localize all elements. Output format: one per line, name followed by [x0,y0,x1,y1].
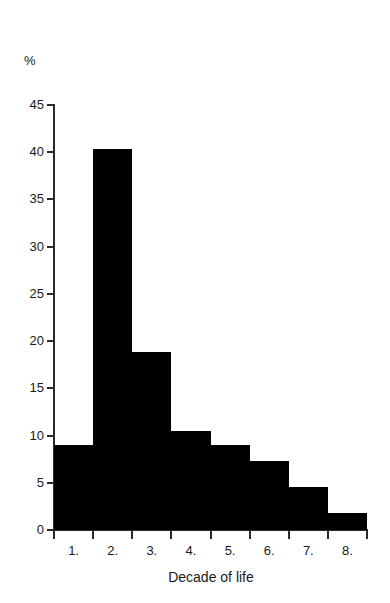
x-axis-tick-mark [170,531,172,539]
y-axis-tick-mark [47,198,54,200]
y-axis-tick-mark [47,435,54,437]
x-axis-tick-label: 6. [249,542,289,560]
x-axis-tick-label: 7. [288,542,328,560]
x-axis-tick-label: 2. [93,542,133,560]
y-axis-tick-mark [47,340,54,342]
y-axis-tick-label-text: 5 [0,476,44,490]
y-axis-unit-label: % [24,53,36,69]
y-axis-tick-label-text: 10 [0,429,44,443]
x-axis-tick-mark [288,531,290,539]
y-axis-tick-label: 35 [0,192,44,206]
x-axis-tick-mark [210,531,212,539]
y-axis-tick-label: 0 [0,523,44,537]
y-axis-tick-label-text: 25 [0,287,44,301]
bar [211,445,250,530]
y-axis-tick-label: 10 [0,429,44,443]
y-axis-tick-mark [47,151,54,153]
y-axis-tick-mark [47,482,54,484]
y-axis-tick-label: 45 [0,98,44,112]
y-axis-tick-label: 40 [0,145,44,159]
x-axis-tick-mark [131,531,133,539]
bar [132,352,171,530]
bar [171,431,210,530]
x-axis-tick-label: 5. [210,542,250,560]
x-axis-tick-label: 3. [132,542,172,560]
x-axis-tick-mark [53,531,55,539]
y-axis-tick-label: 15 [0,381,44,395]
x-axis-tick-label-text: 5. [210,542,250,560]
y-axis-tick-label: 20 [0,334,44,348]
x-axis-tick-mark [249,531,251,539]
y-axis-tick-label-text: 40 [0,145,44,159]
histogram-figure: % 051015202530354045 1.2.3.4.5.6.7.8. De… [0,0,390,603]
x-axis-tick-mark [366,531,368,539]
y-axis-tick-mark [47,293,54,295]
y-axis-tick-mark [47,104,54,106]
y-axis-tick-label: 25 [0,287,44,301]
x-axis-tick-mark [92,531,94,539]
y-axis-tick-label-text: 0 [0,523,44,537]
x-axis-title: Decade of life [54,568,368,586]
x-axis-tick-label-text: 2. [93,542,133,560]
x-axis-tick-label: 8. [327,542,367,560]
y-axis-tick-mark [47,246,54,248]
x-axis-tick-label: 4. [171,542,211,560]
bar [289,487,328,530]
y-axis-tick-label-text: 45 [0,98,44,112]
bar [250,461,289,530]
x-axis-tick-label: 1. [54,542,94,560]
x-axis-tick-label-text: 7. [288,542,328,560]
bar [328,513,367,530]
y-axis-tick-label: 5 [0,476,44,490]
bar [93,149,132,530]
x-axis-tick-label-text: 8. [327,542,367,560]
x-axis-tick-label-text: 3. [132,542,172,560]
y-axis-tick-label: 30 [0,240,44,254]
bar [54,445,93,530]
y-axis-tick-label-text: 20 [0,334,44,348]
x-axis-tick-label-text: 6. [249,542,289,560]
y-axis-tick-label-text: 30 [0,240,44,254]
y-axis-tick-label-text: 15 [0,381,44,395]
y-axis-tick-mark [47,387,54,389]
x-axis-tick-label-text: 1. [54,542,94,560]
x-axis-tick-mark [327,531,329,539]
x-axis-tick-label-text: 4. [171,542,211,560]
y-axis-tick-label-text: 35 [0,192,44,206]
